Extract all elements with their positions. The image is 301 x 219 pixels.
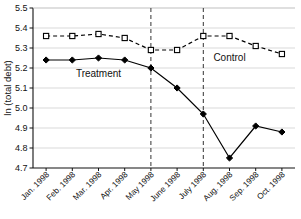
data-point-treatment — [69, 57, 75, 63]
chart-container: 4.74.84.95.05.15.25.35.45.5Jan. 1998Feb.… — [0, 0, 301, 219]
data-point-control — [148, 47, 153, 52]
x-axis-tick-label: Mar. 1998 — [71, 170, 103, 202]
y-axis-tick-label: 5.0 — [15, 103, 28, 113]
y-axis-tick-label: 4.7 — [15, 163, 28, 173]
y-axis-tick-label: 5.2 — [15, 63, 28, 73]
data-point-control — [44, 33, 49, 38]
data-point-treatment — [95, 55, 101, 61]
y-axis-tick-label: 5.1 — [15, 83, 28, 93]
series-line-control — [46, 34, 282, 54]
data-point-treatment — [122, 57, 128, 63]
data-point-control — [253, 43, 258, 48]
data-point-control — [227, 33, 232, 38]
series-annotation-treatment: Treatment — [76, 68, 121, 79]
data-point-treatment — [279, 129, 285, 135]
y-axis-tick-label: 5.4 — [15, 23, 28, 33]
y-axis-tick-label: 5.5 — [15, 3, 28, 13]
line-chart: 4.74.84.95.05.15.25.35.45.5Jan. 1998Feb.… — [0, 0, 301, 219]
y-axis-tick-label: 4.8 — [15, 143, 28, 153]
data-point-treatment — [43, 57, 49, 63]
x-axis-tick-label: Oct. 1998 — [255, 170, 287, 202]
data-point-control — [96, 31, 101, 36]
y-axis-title: ln (total debt) — [2, 60, 13, 115]
series-annotation-control: Control — [213, 52, 245, 63]
data-point-control — [70, 33, 75, 38]
data-point-control — [279, 51, 284, 56]
y-axis-tick-label: 5.3 — [15, 43, 28, 53]
data-point-control — [122, 35, 127, 40]
y-axis-tick-label: 4.9 — [15, 123, 28, 133]
data-point-control — [175, 47, 180, 52]
x-axis-tick-label: Sep. 1998 — [228, 170, 261, 203]
data-point-control — [201, 33, 206, 38]
